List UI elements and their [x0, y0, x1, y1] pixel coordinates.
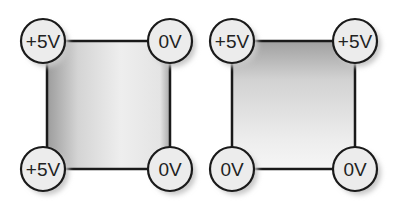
node-label: +5V	[338, 31, 373, 52]
node-label: +5V	[26, 159, 61, 180]
node-label: 0V	[158, 159, 182, 180]
node-right-bottom-right: 0V	[333, 147, 381, 195]
node-left-top-left: +5V	[21, 19, 69, 67]
node-right-top-left: +5V	[210, 19, 258, 67]
diagram-right: +5V +5V 0V 0V	[210, 19, 381, 195]
node-label: 0V	[343, 159, 367, 180]
node-left-bottom-right: 0V	[148, 147, 196, 195]
node-label: +5V	[26, 31, 61, 52]
voltage-diagrams: +5V 0V +5V 0V +5V +5V	[0, 0, 399, 202]
node-label: 0V	[220, 159, 244, 180]
node-label: +5V	[215, 31, 250, 52]
diagram-left: +5V 0V +5V 0V	[21, 19, 196, 195]
node-label: 0V	[158, 31, 182, 52]
square-left	[47, 41, 170, 169]
